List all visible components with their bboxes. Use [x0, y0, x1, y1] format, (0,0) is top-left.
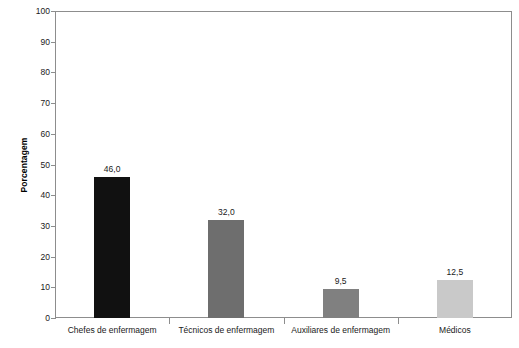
y-tick-label: 60 — [0, 128, 50, 140]
y-tick-label: 0 — [0, 312, 50, 324]
y-tick-mark — [51, 11, 56, 12]
bar-value-label: 32,0 — [186, 207, 266, 217]
y-tick-mark — [51, 134, 56, 135]
y-tick-mark — [51, 72, 56, 73]
x-tick-mark — [398, 318, 399, 324]
y-tick-label: 90 — [0, 36, 50, 48]
y-tick-mark — [51, 165, 56, 166]
bar — [437, 280, 473, 318]
x-axis-category-label: Chefes de enfermagem — [59, 325, 165, 336]
x-axis-category-label: Técnicos de enfermagem — [173, 325, 279, 336]
x-tick-mark — [169, 318, 170, 324]
bar — [208, 220, 244, 318]
y-tick-mark — [51, 195, 56, 196]
y-tick-label: 70 — [0, 97, 50, 109]
x-axis-category-label: Auxiliares de enfermagem — [288, 325, 394, 336]
y-tick-mark — [51, 287, 56, 288]
y-tick-mark — [51, 226, 56, 227]
y-tick-mark — [51, 103, 56, 104]
bar-value-label: 9,5 — [301, 276, 381, 286]
y-tick-label: 20 — [0, 251, 50, 263]
y-tick-label: 80 — [0, 66, 50, 78]
y-tick-mark — [51, 257, 56, 258]
y-tick-label: 10 — [0, 281, 50, 293]
bar — [94, 177, 130, 318]
y-tick-label: 40 — [0, 189, 50, 201]
x-axis-category-label: Médicos — [402, 325, 508, 336]
bar-value-label: 12,5 — [415, 267, 495, 277]
x-tick-mark — [284, 318, 285, 324]
bar — [323, 289, 359, 318]
y-tick-label: 50 — [0, 159, 50, 171]
y-tick-label: 100 — [0, 5, 50, 17]
y-tick-label: 30 — [0, 220, 50, 232]
bar-value-label: 46,0 — [72, 164, 152, 174]
y-tick-mark — [51, 42, 56, 43]
bar-chart: Porcentagem 0102030405060708090100 46,03… — [0, 0, 519, 348]
y-tick-mark — [51, 318, 56, 319]
